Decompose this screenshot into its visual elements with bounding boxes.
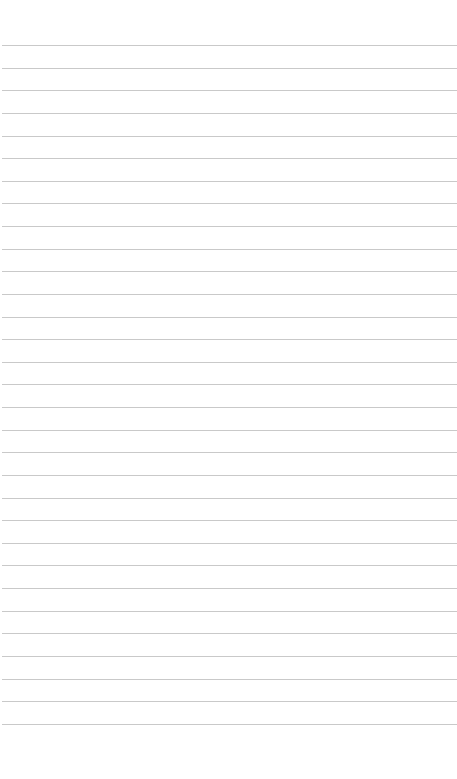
- ruled-line: [2, 656, 457, 657]
- lined-paper-page: [0, 0, 457, 779]
- ruled-line: [2, 271, 457, 272]
- ruled-line: [2, 362, 457, 363]
- ruled-line: [2, 475, 457, 476]
- ruled-line: [2, 520, 457, 521]
- ruled-line: [2, 90, 457, 91]
- ruled-line: [2, 701, 457, 702]
- ruled-line: [2, 226, 457, 227]
- ruled-line: [2, 203, 457, 204]
- ruled-line: [2, 339, 457, 340]
- ruled-line: [2, 679, 457, 680]
- ruled-line: [2, 68, 457, 69]
- ruled-line: [2, 565, 457, 566]
- ruled-line: [2, 113, 457, 114]
- ruled-line: [2, 181, 457, 182]
- ruled-line: [2, 136, 457, 137]
- ruled-line: [2, 430, 457, 431]
- ruled-line: [2, 45, 457, 46]
- ruled-line: [2, 294, 457, 295]
- ruled-line: [2, 498, 457, 499]
- ruled-line: [2, 249, 457, 250]
- ruled-line: [2, 407, 457, 408]
- ruled-line: [2, 611, 457, 612]
- ruled-line: [2, 384, 457, 385]
- ruled-line: [2, 588, 457, 589]
- ruled-line: [2, 724, 457, 725]
- ruled-line: [2, 633, 457, 634]
- ruled-line: [2, 452, 457, 453]
- ruled-line: [2, 543, 457, 544]
- ruled-line: [2, 317, 457, 318]
- ruled-line: [2, 158, 457, 159]
